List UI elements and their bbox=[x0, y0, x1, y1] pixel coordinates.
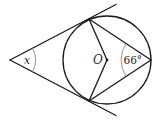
upper-tangent-line bbox=[10, 5, 116, 61]
angle-x-label: x bbox=[24, 54, 31, 67]
tangent-circle-diagram: x O 66° bbox=[0, 0, 156, 124]
angle-66-label: 66° bbox=[124, 54, 143, 66]
center-label: O bbox=[93, 53, 103, 67]
angle-x-arc bbox=[33, 48, 36, 72]
center-point bbox=[106, 59, 109, 62]
lower-tangent-line bbox=[10, 60, 116, 116]
